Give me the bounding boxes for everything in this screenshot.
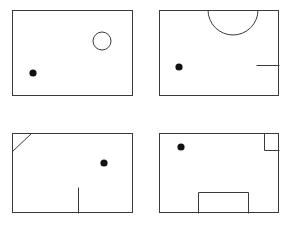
panel-outline xyxy=(160,134,279,213)
four-panel-diagram xyxy=(0,0,293,227)
panel-outline xyxy=(160,11,279,96)
agent-dot xyxy=(100,159,107,166)
panel-outline xyxy=(13,134,133,213)
circle-marker xyxy=(93,32,111,50)
agent-dot xyxy=(175,63,182,70)
panel-bottom-left xyxy=(13,134,133,214)
agent-dot xyxy=(177,143,184,150)
panel-outline xyxy=(13,11,133,96)
panel-bottom-right xyxy=(160,134,280,214)
agent-dot xyxy=(29,69,36,76)
figure-canvas xyxy=(0,0,293,227)
panel-top-left xyxy=(13,11,133,96)
panel-top-right xyxy=(160,10,280,96)
